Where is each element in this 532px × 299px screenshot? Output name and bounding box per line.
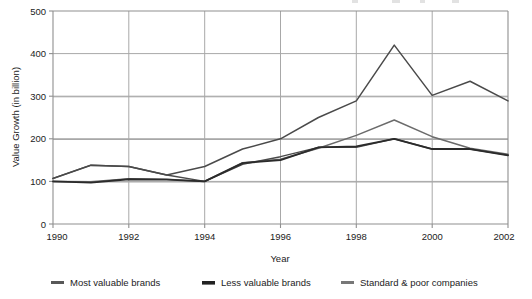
x-tick-label-1998: 1998 xyxy=(346,231,367,242)
legend-label-most-valuable-brands: Most valuable brands xyxy=(70,277,161,288)
chart-figure: 500 400 300 200 100 0 1990 1992 1994 199… xyxy=(0,0,532,299)
x-tick-label-1994: 1994 xyxy=(194,231,215,242)
legend-swatch-icon-less-valuable-brands xyxy=(202,281,215,285)
y-tick-label-200: 200 xyxy=(30,133,46,144)
x-tick-label-1996: 1996 xyxy=(270,231,291,242)
x-tick-label-2000: 2000 xyxy=(422,231,443,242)
legend-label-standard-poor-companies: Standard & poor companies xyxy=(360,277,478,288)
plot-area xyxy=(49,11,508,228)
legend-swatch-icon-most-valuable-brands xyxy=(51,281,64,284)
y-tick-label-500: 500 xyxy=(30,6,46,17)
y-tick-label-400: 400 xyxy=(30,48,46,59)
y-tick-label-300: 300 xyxy=(30,91,46,102)
chart-legend: Most valuable brands Less valuable brand… xyxy=(51,277,478,288)
legend-item-standard-poor-companies[interactable]: Standard & poor companies xyxy=(341,277,478,288)
x-tick-label-2002: 2002 xyxy=(493,231,514,242)
y-tick-label-0: 0 xyxy=(41,219,46,230)
x-tick-label-1992: 1992 xyxy=(118,231,139,242)
legend-swatch-icon-standard-poor-companies xyxy=(341,281,354,284)
legend-label-less-valuable-brands: Less valuable brands xyxy=(221,277,311,288)
y-tick-label-100: 100 xyxy=(30,176,46,187)
x-axis-title: Year xyxy=(270,253,289,264)
x-tick-label-1990: 1990 xyxy=(46,231,67,242)
line-chart-canvas: 500 400 300 200 100 0 1990 1992 1994 199… xyxy=(0,0,532,299)
y-axis-title: Value Growth (in billion) xyxy=(10,67,21,167)
